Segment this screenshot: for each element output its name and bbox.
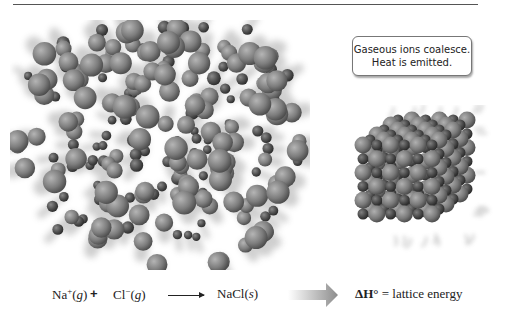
product-sodium-chloride: NaCl(s) (217, 286, 258, 302)
crystal-lattice-illustration (345, 105, 495, 255)
top-rule (13, 4, 478, 5)
lattice-energy-expression: ΔH° = lattice energy (355, 286, 462, 302)
plus-sign: + (90, 286, 98, 301)
callout-box: Gaseous ions coalesce. Heat is emitted. (352, 36, 472, 76)
gradient-arrow-icon (288, 283, 338, 307)
callout-line-1: Gaseous ions coalesce. (353, 43, 471, 56)
reaction-arrow-icon (168, 295, 204, 296)
reactant-chloride-ion: Cl−(g) (113, 286, 146, 303)
reaction-equation: Na+(g) + Cl−(g) NaCl(s) ΔH° = lattice en… (0, 282, 507, 308)
callout-line-2: Heat is emitted. (353, 56, 471, 69)
gaseous-ions-illustration (10, 20, 310, 270)
reactant-sodium-ion: Na+(g) (52, 286, 87, 303)
